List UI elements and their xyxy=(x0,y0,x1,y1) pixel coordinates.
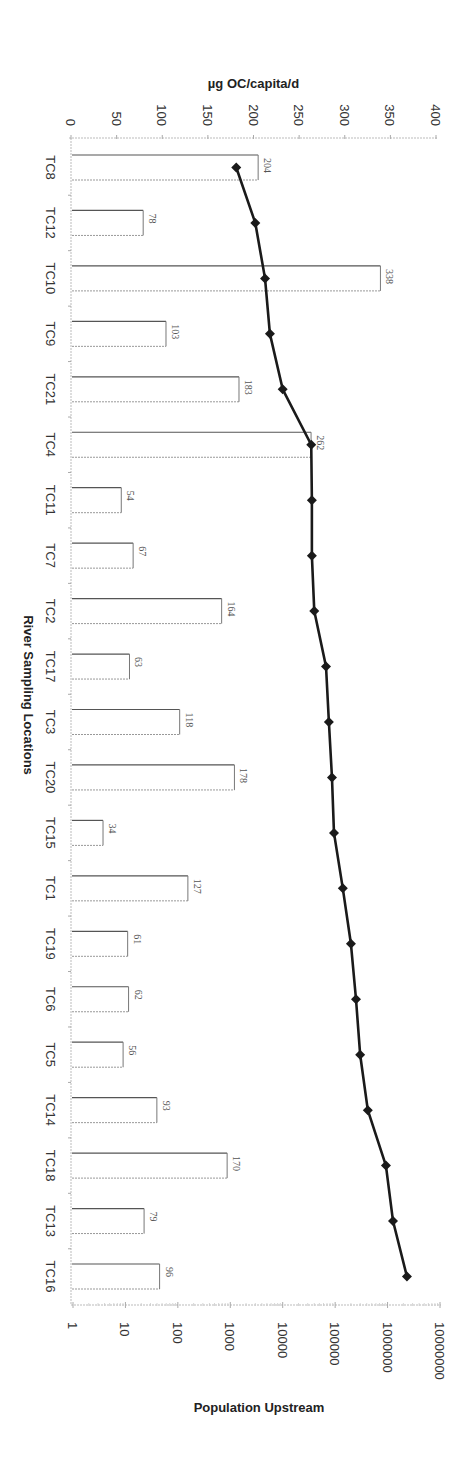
category-label: TC17 xyxy=(43,651,58,683)
bar-value-label: 127 xyxy=(192,879,203,894)
category-label: TC8 xyxy=(43,155,58,180)
category-axis-title-text: River Sampling Locations xyxy=(21,615,36,775)
primary-tick-label: 400 xyxy=(428,104,443,126)
primary-axis-title: µg OC/capita/d xyxy=(208,76,299,91)
bar-rect xyxy=(72,820,103,845)
diamond-marker xyxy=(321,662,331,672)
secondary-tick-label: 100 xyxy=(170,1322,185,1344)
bar-rect xyxy=(72,710,180,735)
bar-rect xyxy=(72,321,166,346)
population-line xyxy=(236,168,407,1277)
bar-value-label: 79 xyxy=(148,1212,159,1222)
bar-rect xyxy=(72,1153,227,1178)
diamond-marker xyxy=(388,1216,398,1226)
bar: 338 xyxy=(72,266,395,291)
primary-tick-label: 300 xyxy=(337,104,352,126)
bar-value-label: 93 xyxy=(161,1101,172,1111)
bar-rect xyxy=(72,765,234,790)
bar-rect xyxy=(72,987,129,1012)
secondary-tick-label: 10000 xyxy=(275,1322,290,1358)
primary-tick-label: 350 xyxy=(382,104,397,126)
category-label: TC4 xyxy=(43,432,58,457)
bar: 54 xyxy=(72,488,136,513)
category-label: TC20 xyxy=(43,762,58,794)
bar: 34 xyxy=(72,820,118,845)
category-label: TC14 xyxy=(43,1094,58,1126)
bar-rect xyxy=(72,1042,123,1067)
category-label: TC6 xyxy=(43,987,58,1012)
category-label: TC3 xyxy=(43,710,58,735)
bar-rect xyxy=(72,1209,144,1234)
bar-value-label: 54 xyxy=(125,491,136,501)
bar-value-label: 62 xyxy=(133,990,144,1000)
category-label: TC15 xyxy=(43,817,58,849)
bar-rect xyxy=(72,931,128,956)
secondary-tick-label: 10000000 xyxy=(432,1322,447,1380)
bar: 127 xyxy=(72,876,203,901)
primary-value-axis: 050100150200250300350400 xyxy=(63,104,443,139)
primary-tick-label: 50 xyxy=(109,112,124,126)
bar: 118 xyxy=(72,710,195,735)
diamond-marker xyxy=(278,384,288,394)
primary-tick-label: 250 xyxy=(291,104,306,126)
bar-value-label: 178 xyxy=(238,768,249,783)
bar-value-label: 338 xyxy=(384,269,395,284)
bar: 93 xyxy=(72,1098,172,1123)
diamond-marker xyxy=(250,218,260,228)
bar-value-label: 103 xyxy=(170,324,181,339)
category-label: TC1 xyxy=(43,876,58,901)
category-label: TC21 xyxy=(43,373,58,405)
bar: 78 xyxy=(72,210,158,235)
diamond-marker xyxy=(329,828,339,838)
secondary-tick-label: 1000000 xyxy=(380,1322,395,1373)
primary-axis-title-text: µg OC/capita/d xyxy=(208,76,299,91)
primary-tick-label: 0 xyxy=(63,119,78,126)
secondary-tick-label: 100000 xyxy=(327,1322,342,1365)
diamond-marker xyxy=(307,551,317,561)
bar: 204 xyxy=(72,155,273,180)
bar-value-label: 61 xyxy=(132,934,143,944)
category-label: TC5 xyxy=(43,1042,58,1067)
secondary-tick-label: 10 xyxy=(117,1322,132,1336)
secondary-axis-title-text: Population Upstream xyxy=(194,1400,325,1415)
bar-series: 2047833810318326254671646311817834127616… xyxy=(72,155,395,1289)
bar-rect xyxy=(72,432,311,457)
category-label: TC10 xyxy=(43,263,58,295)
bar-value-label: 34 xyxy=(107,823,118,833)
bar-value-label: 204 xyxy=(262,158,273,173)
diamond-marker xyxy=(363,1105,373,1115)
bar: 262 xyxy=(72,432,326,457)
bar: 79 xyxy=(72,1209,159,1234)
chart: µg OC/capita/d 050100150200250300350400 … xyxy=(0,0,469,1474)
bar-value-label: 78 xyxy=(147,213,158,223)
category-label: TC16 xyxy=(43,1261,58,1293)
diamond-marker xyxy=(351,994,361,1004)
primary-tick-label: 150 xyxy=(200,104,215,126)
diamond-marker xyxy=(265,329,275,339)
bar-rect xyxy=(72,266,380,291)
population-line-series xyxy=(231,163,412,1282)
bar-value-label: 262 xyxy=(315,435,326,450)
diamond-marker xyxy=(309,606,319,616)
bar-rect xyxy=(72,1098,157,1123)
bar: 61 xyxy=(72,931,143,956)
diamond-marker xyxy=(381,1161,391,1171)
bar-value-label: 56 xyxy=(127,1045,138,1055)
category-axis: TC8TC12TC10TC9TC21TC4TC11TC7TC2TC17TC3TC… xyxy=(43,138,71,1305)
bar-rect xyxy=(72,155,258,180)
category-label: TC7 xyxy=(43,543,58,568)
bar-rect xyxy=(72,377,239,402)
bar-value-label: 118 xyxy=(184,713,195,728)
bar-rect xyxy=(72,210,143,235)
primary-tick-label: 200 xyxy=(246,104,261,126)
bar-value-label: 63 xyxy=(133,657,144,667)
diamond-marker xyxy=(338,883,348,893)
category-label: TC19 xyxy=(43,928,58,960)
diamond-marker xyxy=(307,495,317,505)
bar-rect xyxy=(72,876,188,901)
bar-rect xyxy=(72,543,133,568)
bar: 67 xyxy=(72,543,148,568)
bar-value-label: 67 xyxy=(137,546,148,556)
bar-value-label: 183 xyxy=(243,380,254,395)
category-label: TC18 xyxy=(43,1150,58,1182)
